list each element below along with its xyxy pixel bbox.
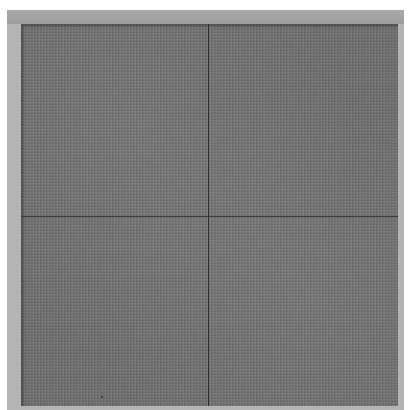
textured-sample-panel <box>21 24 398 406</box>
vertical-crosshair-line <box>208 24 209 406</box>
frame-top-band <box>7 10 404 24</box>
horizontal-crosshair-line <box>21 216 398 217</box>
dust-speck <box>101 396 103 398</box>
